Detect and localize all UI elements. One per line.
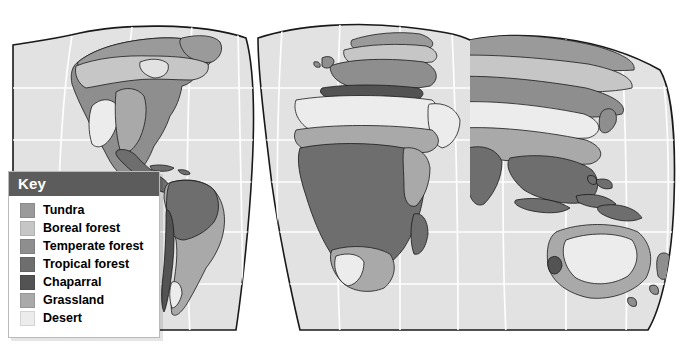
legend-swatch-desert <box>20 311 35 326</box>
europe-temperate-forest <box>330 59 436 89</box>
legend-label-chaparral: Chaparral <box>43 276 101 289</box>
legend-swatch-chaparral <box>20 275 35 290</box>
australia-chaparral <box>548 256 562 274</box>
legend-swatch-tropical-forest <box>20 257 35 272</box>
legend-item-grassland: Grassland <box>9 292 159 309</box>
legend-label-temperate-forest: Temperate forest <box>43 240 144 253</box>
legend-swatch-temperate-forest <box>20 239 35 254</box>
legend-item-chaparral: Chaparral <box>9 274 159 291</box>
legend-item-temperate-forest: Temperate forest <box>9 238 159 255</box>
legend-label-desert: Desert <box>43 312 82 325</box>
legend-label-grassland: Grassland <box>43 294 104 307</box>
legend-item-boreal-forest: Boreal forest <box>9 220 159 237</box>
legend-label-boreal-forest: Boreal forest <box>43 222 120 235</box>
legend-item-desert: Desert <box>9 310 159 327</box>
australia-desert <box>563 234 637 284</box>
legend-swatch-grassland <box>20 293 35 308</box>
legend-item-tropical-forest: Tropical forest <box>9 256 159 273</box>
legend-swatch-boreal-forest <box>20 221 35 236</box>
legend-label-tropical-forest: Tropical forest <box>43 258 129 271</box>
biome-map-figure: Key Tundra Boreal forest Temperate fores… <box>0 0 694 360</box>
map-legend: Key Tundra Boreal forest Temperate fores… <box>8 171 160 338</box>
legend-label-tundra: Tundra <box>43 204 84 217</box>
legend-item-tundra: Tundra <box>9 202 159 219</box>
legend-swatch-tundra <box>20 203 35 218</box>
legend-title: Key <box>9 172 159 196</box>
legend-items: Tundra Boreal forest Temperate forest Tr… <box>9 196 159 337</box>
